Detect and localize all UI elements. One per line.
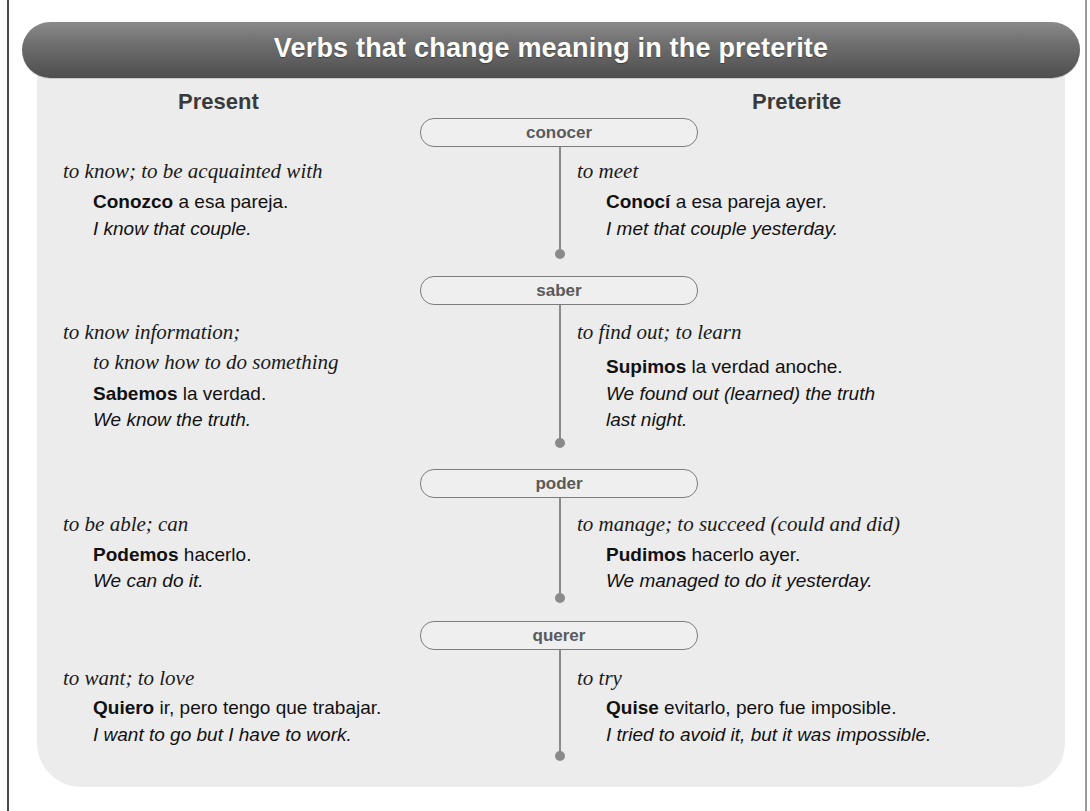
preterite-meaning: to manage; to succeed (could and did) [577, 509, 900, 539]
present-translation: We can do it. [93, 567, 204, 594]
present-verb-form: Sabemos [93, 383, 177, 404]
present-example: Quiero ir, pero tengo que trabajar. [93, 694, 381, 721]
preterite-example-rest: la verdad anoche. [686, 356, 842, 377]
timeline-dot [555, 751, 565, 761]
present-meaning: to want; to love [63, 663, 194, 693]
page-title: Verbs that change meaning in the preteri… [274, 33, 829, 64]
present-translation: I want to go but I have to work. [93, 721, 352, 748]
present-example: Podemos hacerlo. [93, 541, 251, 568]
verb-pill-querer: querer [420, 621, 698, 650]
present-example-rest: hacerlo. [179, 544, 252, 565]
timeline-connector [559, 498, 561, 597]
title-banner: Verbs that change meaning in the preteri… [22, 22, 1080, 78]
preterite-translation: I met that couple yesterday. [606, 215, 838, 242]
timeline-connector [559, 147, 561, 253]
preterite-translation: We managed to do it yesterday. [606, 567, 873, 594]
present-verb-form: Conozco [93, 191, 173, 212]
page-frame-left-border [7, 0, 9, 811]
preterite-translation: We found out (learned) the truth [606, 380, 875, 407]
verb-pill-poder: poder [420, 469, 698, 498]
preterite-translation-line2: last night. [606, 406, 687, 433]
column-header-preterite: Preterite [752, 89, 841, 115]
page-frame-right-border [1085, 0, 1087, 811]
present-example-rest: a esa pareja. [173, 191, 288, 212]
preterite-translation: I tried to avoid it, but it was impossib… [606, 721, 931, 748]
present-example-rest: ir, pero tengo que trabajar. [154, 697, 381, 718]
present-translation: We know the truth. [93, 406, 251, 433]
preterite-verb-form: Pudimos [606, 544, 686, 565]
verb-pill-saber: saber [420, 276, 698, 305]
present-verb-form: Podemos [93, 544, 179, 565]
preterite-meaning: to try [577, 663, 622, 693]
timeline-connector [559, 650, 561, 755]
timeline-dot [555, 438, 565, 448]
preterite-meaning: to meet [577, 156, 638, 186]
timeline-connector [559, 305, 561, 442]
present-meaning: to know information; [63, 317, 240, 347]
preterite-verb-form: Supimos [606, 356, 686, 377]
present-meaning: to be able; can [63, 509, 188, 539]
present-meaning: to know; to be acquainted with [63, 156, 323, 186]
present-meaning-line2: to know how to do something [93, 347, 339, 377]
timeline-dot [555, 249, 565, 259]
timeline-dot [555, 593, 565, 603]
verb-pill-conocer: conocer [420, 118, 698, 147]
present-example: Sabemos la verdad. [93, 380, 266, 407]
present-verb-form: Quiero [93, 697, 154, 718]
preterite-verb-form: Conocí [606, 191, 670, 212]
preterite-example: Quise evitarlo, pero fue imposible. [606, 694, 896, 721]
preterite-verb-form: Quise [606, 697, 659, 718]
present-translation: I know that couple. [93, 215, 251, 242]
present-example-rest: la verdad. [177, 383, 266, 404]
preterite-example-rest: a esa pareja ayer. [670, 191, 826, 212]
preterite-example-rest: evitarlo, pero fue imposible. [659, 697, 897, 718]
column-header-present: Present [178, 89, 259, 115]
preterite-meaning: to find out; to learn [577, 317, 742, 347]
preterite-example: Supimos la verdad anoche. [606, 353, 843, 380]
preterite-example: Pudimos hacerlo ayer. [606, 541, 800, 568]
preterite-example-rest: hacerlo ayer. [686, 544, 800, 565]
preterite-example: Conocí a esa pareja ayer. [606, 188, 827, 215]
present-example: Conozco a esa pareja. [93, 188, 288, 215]
